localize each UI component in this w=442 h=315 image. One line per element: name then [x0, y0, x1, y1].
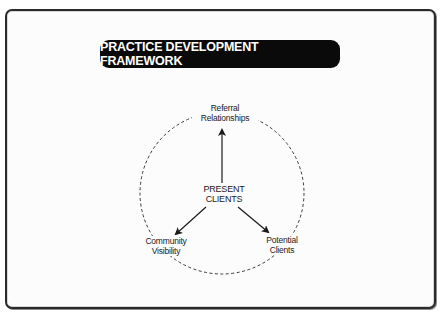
node-potential-clients: Potential Clients: [256, 235, 308, 255]
node-community-visibility: Community Visibility: [136, 236, 196, 256]
node-label-line1: Referral: [194, 103, 256, 113]
node-label-line2: Relationships: [194, 113, 256, 123]
node-label-line1: Potential: [258, 235, 306, 245]
framework-diagram: [0, 0, 442, 315]
node-label-line2: Visibility: [138, 246, 194, 256]
node-present-clients: PRESENT CLIENTS: [196, 184, 252, 204]
node-label-line1: Community: [138, 236, 194, 246]
arrow-to-potential-clients: [238, 207, 268, 232]
center-label-line1: PRESENT: [198, 184, 250, 194]
node-label-line2: Clients: [258, 245, 306, 255]
arrow-to-community-visibility: [176, 207, 206, 234]
node-referral-relationships: Referral Relationships: [192, 103, 258, 123]
center-label-line2: CLIENTS: [198, 194, 250, 204]
